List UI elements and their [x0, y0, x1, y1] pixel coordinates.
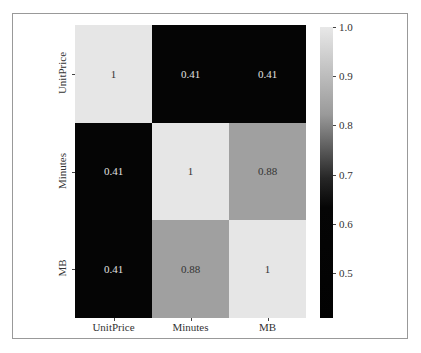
- colorbar-tick-label: 1.0: [339, 22, 353, 33]
- y-tick: [72, 269, 75, 270]
- heatmap-cell: 1: [75, 25, 152, 123]
- heatmap-cell: 1: [152, 123, 229, 221]
- y-tick-label: UnitPrice: [56, 33, 68, 113]
- heatmap-cell: 0.88: [229, 123, 306, 221]
- heatmap: 10.410.410.4110.880.410.881: [75, 25, 306, 318]
- x-tick-label: Minutes: [152, 321, 229, 333]
- x-tick-label: MB: [229, 321, 306, 333]
- y-tick-label: Minutes: [56, 131, 68, 211]
- heatmap-cell: 0.41: [152, 25, 229, 123]
- heatmap-cell: 0.88: [152, 220, 229, 318]
- heatmap-cell: 1: [229, 220, 306, 318]
- x-tick: [191, 318, 192, 321]
- heatmap-cell: 0.41: [75, 220, 152, 318]
- y-tick: [72, 172, 75, 173]
- x-tick: [114, 318, 115, 321]
- heatmap-cell: 0.41: [229, 25, 306, 123]
- y-tick-label: MB: [56, 228, 68, 308]
- colorbar-tick: [333, 27, 336, 28]
- colorbar-tick: [333, 76, 336, 77]
- colorbar: [320, 27, 333, 318]
- colorbar-tick: [333, 273, 336, 274]
- colorbar-tick-label: 0.8: [339, 120, 353, 131]
- colorbar-tick-label: 0.9: [339, 71, 353, 82]
- x-tick-label: UnitPrice: [75, 321, 152, 333]
- colorbar-tick: [333, 175, 336, 176]
- colorbar-tick: [333, 224, 336, 225]
- colorbar-tick-label: 0.6: [339, 219, 353, 230]
- x-tick: [268, 318, 269, 321]
- heatmap-cell: 0.41: [75, 123, 152, 221]
- y-tick: [72, 74, 75, 75]
- colorbar-tick: [333, 125, 336, 126]
- colorbar-tick-label: 0.5: [339, 268, 353, 279]
- colorbar-tick-label: 0.7: [339, 170, 353, 181]
